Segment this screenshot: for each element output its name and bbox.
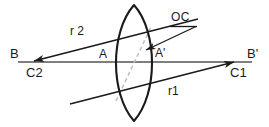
diagram-canvas: [0, 0, 269, 127]
label-c1: C1: [230, 66, 247, 79]
lens-diagram-figure: B B' C2 C1 A A' r 2 r1 OC: [0, 0, 269, 127]
label-b-right: B': [247, 47, 258, 60]
label-oc: OC: [171, 11, 190, 23]
label-r2: r 2: [70, 25, 84, 37]
label-b-left: B: [10, 47, 19, 60]
label-a-prime: A': [155, 47, 165, 59]
label-r1: r1: [168, 85, 179, 97]
label-c2: C2: [26, 66, 43, 79]
label-a: A: [99, 48, 107, 60]
